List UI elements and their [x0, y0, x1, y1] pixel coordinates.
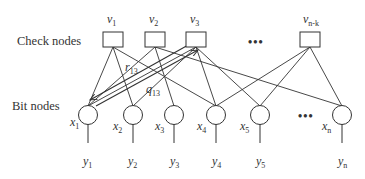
check-nodes-label: Check nodes	[17, 35, 81, 48]
bit-node-x3	[165, 106, 184, 125]
label-v3: v3	[190, 13, 199, 28]
label-yn: yn	[338, 155, 347, 170]
bit-nodes-ellipsis: •••	[298, 110, 314, 122]
bit-node-x2	[124, 106, 143, 125]
bit-node-x1	[79, 106, 98, 125]
bit-node-x4	[207, 106, 226, 125]
label-v1: v1	[107, 13, 116, 28]
edge-v1-x1	[88, 47, 113, 106]
label-x1: x1	[70, 116, 79, 131]
label-xn: xn	[322, 120, 331, 135]
label-x2: x2	[113, 120, 122, 135]
label-y5: y5	[256, 155, 265, 170]
check-node-v2	[145, 32, 165, 47]
check-nodes-ellipsis: •••	[248, 36, 264, 48]
check-node-v3	[186, 32, 206, 47]
label-y4: y4	[212, 155, 221, 170]
label-y1: y1	[83, 155, 92, 170]
bit-node-xn	[333, 106, 352, 125]
label-y3: y3	[170, 155, 179, 170]
message-arrow-r13	[90, 44, 190, 100]
edge-vnk-x5	[260, 47, 310, 106]
edge-v2-xn	[155, 47, 342, 106]
label-r13: r13	[125, 61, 138, 76]
label-vnk: vn-k	[303, 13, 319, 28]
edges	[88, 47, 342, 106]
label-y2: y2	[128, 155, 137, 170]
bit-node-x5	[251, 106, 270, 125]
check-node-v1	[103, 32, 123, 47]
label-x5: x5	[240, 120, 249, 135]
edge-v2-x1	[88, 47, 155, 106]
check-node-vnk	[300, 32, 320, 47]
label-x3: x3	[155, 120, 164, 135]
check-nodes	[103, 32, 320, 47]
label-v2: v2	[149, 13, 158, 28]
edge-vnk-x4	[216, 47, 310, 106]
bit-nodes-label: Bit nodes	[12, 100, 60, 113]
label-q13: q13	[146, 83, 160, 98]
label-x4: x4	[197, 120, 206, 135]
edge-v1-x2	[113, 47, 133, 106]
